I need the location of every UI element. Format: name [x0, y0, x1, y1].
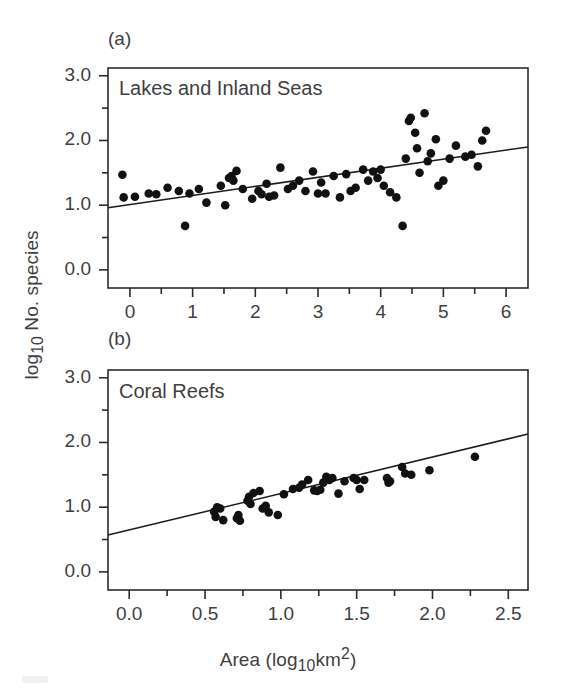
- x-tick-label: 2.5: [468, 603, 548, 625]
- data-point: [474, 162, 483, 171]
- data-point: [351, 183, 360, 192]
- data-point: [401, 154, 410, 163]
- data-point: [411, 128, 420, 137]
- data-point: [482, 126, 491, 135]
- data-point: [181, 222, 190, 231]
- data-point: [427, 149, 436, 158]
- x-tick-label: 0.5: [165, 603, 245, 625]
- figure-container: log10 No. species Area (log10km2) (a) (b…: [0, 0, 576, 691]
- data-point: [415, 169, 424, 178]
- data-point: [304, 476, 313, 485]
- y-tick-label: 2.0: [13, 430, 91, 452]
- data-point: [321, 189, 330, 198]
- y-tick-label: 0.0: [13, 560, 91, 582]
- data-point: [246, 500, 255, 509]
- data-point: [340, 477, 349, 486]
- data-point: [432, 135, 441, 144]
- data-point: [329, 172, 338, 181]
- data-point: [229, 176, 238, 185]
- data-point: [445, 154, 454, 163]
- data-point: [248, 194, 257, 203]
- plot-frame: [108, 370, 528, 590]
- data-point: [467, 150, 476, 159]
- data-point: [118, 170, 127, 179]
- data-point: [386, 477, 395, 486]
- data-point: [274, 511, 283, 520]
- data-point: [195, 185, 204, 194]
- data-point: [185, 189, 194, 198]
- data-point: [309, 167, 318, 176]
- data-point: [425, 466, 434, 475]
- y-tick-label: 3.0: [13, 64, 91, 86]
- data-point: [262, 180, 271, 189]
- data-point: [360, 476, 369, 485]
- data-point: [217, 181, 226, 190]
- data-point: [119, 193, 128, 202]
- data-point: [376, 165, 385, 174]
- data-point: [352, 476, 361, 485]
- y-tick-label: 3.0: [13, 366, 91, 388]
- data-point: [238, 185, 247, 194]
- data-point: [219, 516, 228, 525]
- data-point: [232, 167, 241, 176]
- y-tick-label: 1.0: [13, 193, 91, 215]
- data-point: [163, 183, 172, 192]
- data-point: [202, 198, 211, 207]
- data-point: [152, 190, 161, 199]
- data-point: [211, 513, 220, 522]
- data-point: [471, 452, 480, 461]
- x-tick-label: 1.0: [241, 603, 321, 625]
- y-tick-label: 2.0: [13, 128, 91, 150]
- data-point: [236, 516, 245, 525]
- data-point: [216, 504, 225, 513]
- data-point: [317, 178, 326, 187]
- data-point: [452, 141, 461, 150]
- data-point: [406, 114, 415, 123]
- panel-a-plot: [99, 68, 528, 297]
- data-point: [373, 174, 382, 183]
- data-point: [364, 176, 373, 185]
- x-tick-label: 0.0: [89, 603, 169, 625]
- x-tick-label: 1.5: [317, 603, 397, 625]
- regression-line: [108, 434, 528, 535]
- data-point: [270, 191, 279, 200]
- data-point: [392, 193, 401, 202]
- data-point: [144, 189, 153, 198]
- page-artifact: [22, 676, 48, 683]
- x-tick-label: 2.0: [392, 603, 472, 625]
- data-point: [359, 165, 368, 174]
- data-point: [407, 471, 416, 480]
- data-point: [301, 187, 310, 196]
- data-point: [257, 190, 266, 199]
- data-point: [336, 193, 345, 202]
- data-point: [478, 136, 487, 145]
- panel-b-plot: [99, 370, 528, 599]
- data-point: [398, 222, 407, 231]
- x-tick-label: 6: [466, 301, 546, 323]
- data-point: [175, 187, 184, 196]
- data-point: [420, 109, 429, 118]
- data-point: [280, 490, 289, 499]
- data-point: [295, 176, 304, 185]
- data-point: [221, 201, 230, 210]
- data-point: [131, 192, 140, 201]
- data-point: [264, 508, 273, 517]
- data-point: [423, 157, 432, 166]
- data-point: [439, 176, 448, 185]
- data-point: [355, 485, 364, 494]
- data-point: [413, 144, 422, 153]
- plot-svg: [0, 0, 576, 691]
- data-point: [328, 474, 337, 483]
- data-point: [255, 487, 264, 496]
- data-point: [342, 170, 351, 179]
- data-point: [314, 189, 323, 198]
- y-tick-label: 1.0: [13, 495, 91, 517]
- data-point: [276, 163, 285, 172]
- y-tick-label: 0.0: [13, 258, 91, 280]
- data-point: [334, 489, 343, 498]
- data-point: [380, 181, 389, 190]
